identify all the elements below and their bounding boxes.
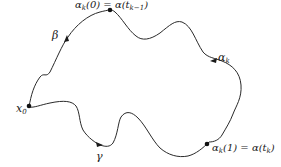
label-bottom-point: αk(1) = α(tk) [212,143,275,155]
diagram-canvas: x0 β γ αk αk(0) = α(tk−1) αk(1) = α(tk) [0,0,281,167]
label-gamma: γ [96,151,103,162]
upper-curve [29,10,241,142]
label-alpha-k: αk [218,52,230,65]
point-x0 [27,104,32,109]
point-bottom [205,142,210,147]
label-x0: x0 [16,103,27,116]
label-beta: β [52,30,58,41]
lower-curve [29,101,209,156]
label-top-point: αk(0) = α(tk−1) [75,0,148,12]
arrow-gamma-icon [96,142,103,147]
arrow-alpha-k-icon [210,58,217,63]
